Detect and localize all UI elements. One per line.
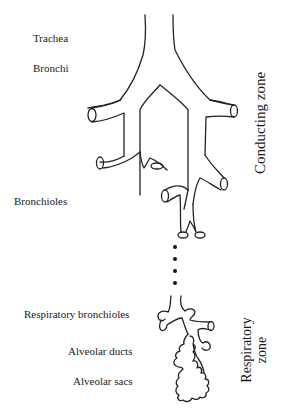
right-mid-branch-wall: [193, 178, 221, 204]
continuation-dot: [173, 257, 177, 261]
airway-diagram: Trachea Bronchi Bronchioles Respiratory …: [0, 0, 284, 409]
left-lower-branch-opening-b: [151, 163, 163, 169]
label-alveolar-ducts: Alveolar ducts: [68, 346, 132, 357]
trachea-right-wall: [173, 15, 232, 105]
terminal-bifurcation: [186, 204, 196, 232]
terminal-opening-right: [195, 232, 205, 238]
continuation-dot: [173, 281, 177, 285]
label-bronchioles: Bronchioles: [14, 196, 67, 207]
label-conducting-zone: Conducting zone: [253, 72, 269, 174]
right-upper-branch-opening: [231, 105, 238, 117]
left-upper-branch: [92, 100, 124, 156]
left-lower-branch-opening-a: [97, 157, 104, 169]
right-mid-branch: [184, 155, 224, 209]
label-bronchi: Bronchi: [33, 63, 68, 74]
label-respiratory-zone-line1: Respiratory: [240, 300, 255, 400]
label-trachea: Trachea: [33, 33, 68, 44]
continuation-dot: [173, 245, 177, 249]
continuation-dot: [173, 269, 177, 273]
right-upper-branch: [205, 100, 234, 155]
carina: [140, 85, 188, 195]
alveolar-ducts-and-sacs: [174, 334, 209, 401]
respiratory-bronchiole-opening: [208, 322, 214, 331]
label-respiratory-zone-line2: zone: [255, 300, 270, 400]
left-lower-branch-wall: [103, 152, 140, 168]
label-alveolar-sacs: Alveolar sacs: [73, 376, 133, 387]
terminal-opening-left: [178, 232, 188, 238]
right-mid-branch-opening: [221, 178, 228, 190]
label-respiratory-zone: Respiratory zone: [240, 300, 269, 400]
left-upper-branch-opening: [88, 109, 96, 122]
bronchiole-left-opening: [162, 190, 169, 202]
label-respiratory-bronchioles: Respiratory bronchioles: [24, 309, 129, 320]
trachea-left-wall: [88, 15, 146, 108]
